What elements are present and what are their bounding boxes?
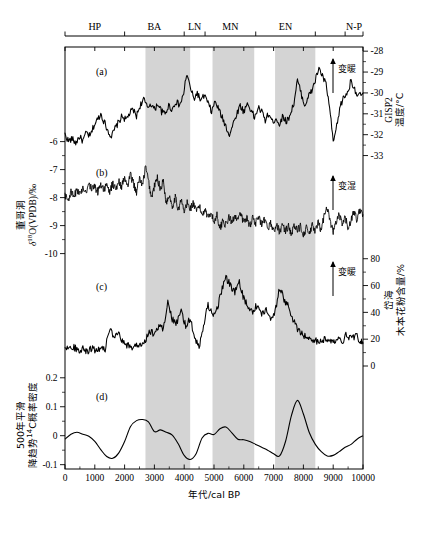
right-c-tick-label-40: 40: [371, 308, 381, 318]
right-a-tick-label--29: -29: [371, 67, 384, 77]
x-tick-label-7000: 7000: [264, 473, 283, 483]
right-a-tick-label--28: -28: [371, 46, 384, 56]
panel-label-b: (b): [96, 167, 108, 179]
left-b-tick-label--6: -6: [50, 137, 58, 147]
top-period-label-en: EN: [279, 21, 292, 32]
annotation-wetter-b: 变湿: [338, 180, 356, 191]
arrow-head-a: [330, 58, 336, 64]
shaded-band-2: [275, 47, 315, 469]
arrow-head-b: [330, 175, 336, 181]
right-c-tick-label-80: 80: [371, 254, 381, 264]
left-d-tick-label-0: 0: [53, 431, 58, 441]
right-a-tick-label--32: -32: [371, 130, 384, 140]
x-axis-title: 年代/cal BP: [188, 489, 240, 500]
x-tick-label-3000: 3000: [145, 473, 164, 483]
left-axis-b-ticks: -10-9-8-7-6: [45, 137, 65, 259]
right-axis-a-ticks: -28-29-30-31-32-33: [363, 46, 383, 160]
right-axis-c-title-line1: 岱海: [383, 290, 394, 310]
left-d-tick-label-neg0p1: -0.1: [42, 460, 57, 470]
x-tick-label-0: 0: [63, 473, 68, 483]
arrow-head-c: [330, 261, 336, 267]
panel-label-c: (c): [96, 281, 107, 293]
figure-svg: HPBALNMNENN-P010002000300040005000600070…: [0, 0, 435, 536]
top-period-label-hp: HP: [88, 21, 101, 32]
warming-arrow-c: 变暖: [330, 261, 356, 296]
left-b-tick-label--10: -10: [45, 249, 58, 259]
top-period-label-np: N-P: [346, 21, 363, 32]
left-d-tick-label-0p1: 0.1: [46, 402, 58, 412]
left-d-tick-label-0p2: 0.2: [46, 373, 58, 383]
wetter-arrow-b: 变湿: [330, 175, 356, 210]
left-b-tick-label--7: -7: [50, 165, 58, 175]
right-a-tick-label--31: -31: [371, 109, 384, 119]
right-c-tick-label-0: 0: [371, 361, 376, 371]
figure-container: HPBALNMNENN-P010002000300040005000600070…: [0, 0, 435, 536]
left-axis-d-title-line1: 500年平滑: [15, 401, 26, 449]
x-tick-label-4000: 4000: [175, 473, 194, 483]
left-b-tick-label--8: -8: [50, 193, 58, 203]
x-tick-label-2000: 2000: [115, 473, 134, 483]
left-axis-b-title-symbol: δ18O(VPDB)/‰: [26, 183, 39, 246]
x-tick-label-6000: 6000: [234, 473, 253, 483]
panel-label-a: (a): [96, 66, 107, 78]
warming-arrow-a: 变暖: [330, 58, 356, 93]
panel-label-d: (d): [96, 391, 108, 403]
left-axis-d-ticks: -0.100.10.2: [42, 373, 65, 470]
left-axis-b-title-cn: 董哥洞: [15, 200, 26, 230]
top-period-axis: HPBALNMNENN-P: [65, 21, 363, 37]
x-tick-label-5000: 5000: [205, 473, 224, 483]
right-axis-a-title-line2: 温度/°C: [394, 92, 405, 127]
annotation-warming-c: 变暖: [338, 266, 356, 277]
right-c-tick-label-20: 20: [371, 334, 381, 344]
right-a-tick-label--33: -33: [371, 151, 384, 161]
right-axis-a-title-line1: GISP2: [384, 97, 394, 123]
annotation-warming-a: 变暖: [338, 63, 356, 74]
right-c-tick-label-60: 60: [371, 281, 381, 291]
x-tick-label-10000: 10000: [351, 473, 375, 483]
right-axis-c-title-line2: 木本花粉含量/%: [395, 264, 406, 336]
shaded-band-0: [145, 47, 190, 469]
left-b-tick-label--9: -9: [50, 221, 58, 231]
right-axis-c-ticks: 020406080: [363, 254, 380, 371]
left-axis-d-title-line2: 降趋势14C概率密度: [26, 382, 38, 468]
top-period-label-mn: MN: [222, 21, 238, 32]
x-tick-label-8000: 8000: [294, 473, 313, 483]
x-tick-label-9000: 9000: [324, 473, 343, 483]
right-a-tick-label--30: -30: [371, 88, 384, 98]
top-period-label-ln: LN: [188, 21, 201, 32]
x-tick-label-1000: 1000: [85, 473, 104, 483]
top-period-label-ba: BA: [147, 21, 162, 32]
